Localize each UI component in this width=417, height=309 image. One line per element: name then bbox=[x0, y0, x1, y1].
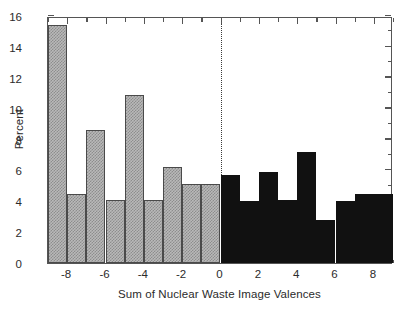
axis-tick bbox=[316, 18, 317, 22]
axis-tick bbox=[385, 169, 391, 170]
histogram-bar bbox=[374, 194, 393, 263]
axis-tick bbox=[385, 138, 391, 139]
x-tick-label: 6 bbox=[315, 268, 355, 280]
histogram-bar bbox=[163, 167, 182, 263]
x-tick-label: -6 bbox=[85, 268, 125, 280]
histogram-bar bbox=[144, 200, 163, 263]
axis-tick bbox=[48, 18, 49, 22]
y-tick-label: 12 bbox=[0, 73, 22, 85]
axis-tick bbox=[388, 154, 392, 155]
axis-tick bbox=[67, 18, 68, 24]
axis-tick bbox=[201, 18, 202, 22]
x-tick-label: 8 bbox=[353, 268, 393, 280]
axis-tick bbox=[393, 260, 394, 264]
axis-tick bbox=[388, 185, 392, 186]
histogram-bar bbox=[240, 201, 259, 263]
x-axis-title: Sum of Nuclear Waste Image Valences bbox=[47, 288, 392, 300]
axis-tick bbox=[182, 18, 183, 24]
plot-area bbox=[47, 17, 392, 264]
axis-tick bbox=[388, 30, 392, 31]
histogram-bar bbox=[221, 175, 240, 263]
histogram-bar bbox=[336, 201, 355, 263]
y-tick-label: 4 bbox=[0, 196, 22, 208]
axis-tick bbox=[388, 61, 392, 62]
histogram-bar bbox=[201, 184, 220, 263]
x-tick-label: -8 bbox=[46, 268, 86, 280]
histogram-bar bbox=[278, 200, 297, 263]
axis-tick bbox=[355, 18, 356, 22]
axis-tick bbox=[374, 18, 375, 24]
y-tick-label: 14 bbox=[0, 42, 22, 54]
bars-group bbox=[48, 18, 391, 263]
axis-tick bbox=[48, 15, 54, 16]
y-tick-label: 16 bbox=[0, 11, 22, 23]
axis-tick bbox=[278, 18, 279, 22]
y-tick-label: 2 bbox=[0, 227, 22, 239]
axis-tick bbox=[385, 15, 391, 16]
histogram-bar bbox=[125, 95, 144, 263]
axis-tick bbox=[106, 18, 107, 24]
axis-tick bbox=[125, 18, 126, 22]
axis-tick bbox=[336, 18, 337, 24]
axis-tick bbox=[240, 18, 241, 22]
axis-tick bbox=[388, 123, 392, 124]
histogram-bar bbox=[106, 200, 125, 263]
x-tick-label: 0 bbox=[200, 268, 240, 280]
y-tick-label: 6 bbox=[0, 165, 22, 177]
histogram-bar bbox=[316, 220, 335, 263]
histogram-bar bbox=[86, 130, 105, 263]
axis-tick bbox=[385, 107, 391, 108]
axis-tick bbox=[297, 18, 298, 24]
histogram-figure: Percent 0246810121416 -8-6-4-202468 Sum … bbox=[0, 0, 417, 309]
axis-tick bbox=[144, 18, 145, 24]
axis-tick bbox=[86, 18, 87, 22]
x-tick-label: 4 bbox=[276, 268, 316, 280]
axis-tick bbox=[385, 76, 391, 77]
histogram-bar bbox=[182, 184, 201, 263]
histogram-bar bbox=[355, 194, 374, 263]
axis-tick bbox=[385, 46, 391, 47]
histogram-bar bbox=[48, 25, 67, 263]
y-tick-label: 10 bbox=[0, 104, 22, 116]
y-axis-title: Percent bbox=[13, 83, 25, 175]
x-tick-label: 2 bbox=[238, 268, 278, 280]
axis-tick bbox=[259, 18, 260, 24]
x-tick-label: -2 bbox=[161, 268, 201, 280]
y-tick-label: 8 bbox=[0, 135, 22, 147]
axis-tick bbox=[221, 18, 222, 24]
axis-tick bbox=[393, 18, 394, 22]
axis-tick bbox=[163, 18, 164, 22]
histogram-bar bbox=[297, 152, 316, 263]
histogram-bar bbox=[259, 172, 278, 263]
y-tick-label: 0 bbox=[0, 258, 22, 270]
histogram-bar bbox=[67, 194, 86, 263]
x-tick-label: -4 bbox=[123, 268, 163, 280]
axis-tick bbox=[388, 92, 392, 93]
